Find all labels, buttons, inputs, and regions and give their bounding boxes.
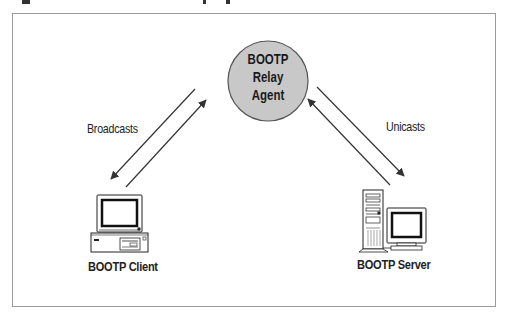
diagram-svg [0, 0, 508, 320]
broadcasts-label: Broadcasts [87, 121, 138, 136]
relay-agent-label: BOOTP Relay Agent [228, 50, 308, 104]
client-label: BOOTP Client [88, 259, 158, 274]
relay-agent-line-1: BOOTP [235, 50, 301, 68]
diagram-canvas: BOOTP Relay Agent Broadcasts Unicasts BO… [0, 0, 508, 320]
relay-agent-line-2: Relay [235, 68, 301, 86]
desktop-computer-icon [91, 195, 148, 252]
relay-agent-line-3: Agent [235, 86, 301, 104]
server-label: BOOTP Server [357, 257, 431, 272]
unicasts-label: Unicasts [386, 119, 425, 134]
